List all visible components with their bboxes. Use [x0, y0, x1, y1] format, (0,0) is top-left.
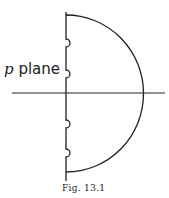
- contour-diagram: [0, 0, 169, 198]
- imaginary-axis-indented: [66, 12, 70, 181]
- plane-word: plane: [18, 60, 60, 78]
- p-variable: p: [4, 60, 14, 78]
- figure-caption: Fig. 13.1: [62, 183, 105, 193]
- p-plane-label: p plane: [4, 60, 60, 78]
